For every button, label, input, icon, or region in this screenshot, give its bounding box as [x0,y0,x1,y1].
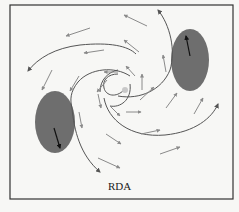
left-vortex [35,91,75,153]
vector-arrow [194,98,203,114]
vector-arrow [106,134,121,144]
right-vortex-ellipse [171,29,209,91]
vector-arrow [79,112,82,128]
right-vortex [171,29,209,91]
vector-arrow [160,147,180,154]
center-point [122,87,128,93]
vector-arrow [98,94,101,108]
vector-arrow [66,28,90,36]
vector-arrow [42,70,52,90]
streamline-top-right [118,10,172,97]
vector-arrow [110,106,120,116]
streamline-top-left [28,44,136,71]
vector-arrow [124,15,147,26]
vector-arrow [163,55,166,72]
vector-arrow [141,130,160,134]
vector-arrow [84,50,104,53]
vector-arrow [166,93,177,108]
diagram-label: RDA [0,180,239,192]
vector-arrow [98,158,120,168]
streamline-inner-1 [104,74,124,95]
streamline-bottom-right [104,98,218,135]
streamline-inner-3 [100,70,118,92]
vector-arrow [70,76,79,91]
left-vortex-ellipse [35,91,75,153]
